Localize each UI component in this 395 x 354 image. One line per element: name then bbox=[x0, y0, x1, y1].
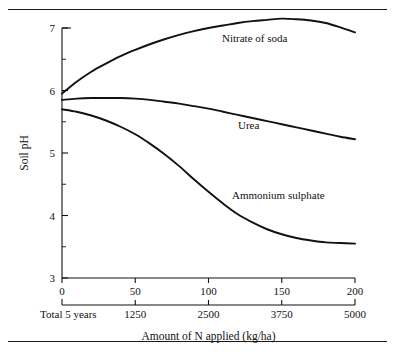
series-curve-2 bbox=[62, 109, 355, 243]
x-tick-label: 200 bbox=[347, 285, 364, 297]
series-label-2: Ammonium sulphate bbox=[232, 189, 325, 201]
series-label-0: Nitrate of soda bbox=[222, 32, 287, 44]
x-tick-label: 150 bbox=[274, 285, 291, 297]
secondary-x-tick-label: 2500 bbox=[198, 308, 221, 320]
x-axis: 050100150200 bbox=[59, 278, 364, 297]
secondary-x-axis: 1250250037505000Total 5 years bbox=[40, 299, 367, 320]
series-curves bbox=[62, 19, 355, 244]
y-axis: 34567 bbox=[50, 22, 72, 284]
x-tick-label: 50 bbox=[130, 285, 142, 297]
y-tick-label: 4 bbox=[50, 210, 56, 222]
figure-container: 34567 050100150200 1250250037505000Total… bbox=[0, 0, 395, 354]
series-curve-1 bbox=[62, 98, 355, 139]
total-5-years-label: Total 5 years bbox=[40, 308, 97, 320]
secondary-x-tick-label: 5000 bbox=[344, 308, 367, 320]
soil-ph-line-chart: 34567 050100150200 1250250037505000Total… bbox=[0, 0, 395, 354]
x-tick-label: 100 bbox=[200, 285, 217, 297]
y-axis-title: Soil pH bbox=[18, 135, 31, 170]
y-tick-label: 6 bbox=[50, 85, 56, 97]
y-tick-label: 7 bbox=[50, 22, 56, 34]
secondary-x-tick-label: 3750 bbox=[271, 308, 294, 320]
series-labels: Nitrate of sodaUreaAmmonium sulphate bbox=[222, 32, 325, 201]
series-curve-0 bbox=[62, 19, 355, 94]
y-tick-label: 5 bbox=[50, 147, 56, 159]
x-axis-title: Amount of N applied (kg/ha) bbox=[141, 330, 275, 343]
series-label-1: Urea bbox=[238, 119, 259, 131]
y-tick-label: 3 bbox=[50, 272, 56, 284]
secondary-x-tick-label: 1250 bbox=[124, 308, 147, 320]
x-tick-label: 0 bbox=[59, 285, 65, 297]
